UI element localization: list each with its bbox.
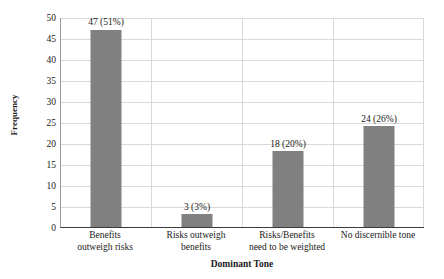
y-tick-label: 0 (28, 223, 56, 233)
bar-group: 18 (20%) (243, 18, 333, 227)
x-category-label: Risks/Benefits need to be weighted (242, 230, 332, 253)
x-category-line-1: Risks outweigh (151, 230, 241, 242)
bar-value-label: 47 (51%) (88, 17, 124, 28)
y-axis-tick-labels: 50 45 40 35 30 25 20 15 10 5 0 (28, 18, 56, 228)
y-tick-label: 40 (28, 55, 56, 65)
x-category-line-1: Risks/Benefits (242, 230, 332, 242)
y-tick-label: 50 (28, 13, 56, 23)
y-tick-label: 45 (28, 34, 56, 44)
bar-series: 47 (51%) 3 (3%) 18 (20%) 24 (26%) (61, 18, 424, 227)
x-axis-title: Dominant Tone (60, 259, 424, 269)
bar-value-label: 18 (20%) (270, 139, 306, 150)
x-category-line-1: Benefits (60, 230, 150, 242)
y-tick-label: 15 (28, 160, 56, 170)
y-tick-label: 20 (28, 139, 56, 149)
y-tick-label: 25 (28, 118, 56, 128)
x-axis-category-labels: Benefits outweigh risks Risks outweigh b… (60, 230, 424, 258)
x-category-line-2: outweigh risks (60, 242, 150, 254)
x-category-label: Risks outweigh benefits (151, 230, 241, 253)
bar-chart: Frequency 50 45 40 35 30 25 20 15 10 5 0 (0, 0, 444, 279)
bar-value-label: 24 (26%) (361, 114, 397, 125)
x-category-label: No discernible tone (331, 230, 425, 242)
bar[interactable] (273, 151, 304, 227)
y-tick-label: 5 (28, 202, 56, 212)
x-category-label: Benefits outweigh risks (60, 230, 150, 253)
x-category-line-2: need to be weighted (242, 242, 332, 254)
bar[interactable] (364, 126, 395, 227)
y-axis-title: Frequency (9, 70, 19, 160)
x-category-line-2: benefits (151, 242, 241, 254)
bar[interactable] (91, 30, 122, 227)
x-category-line-1: No discernible tone (331, 230, 425, 242)
bar[interactable] (182, 214, 213, 227)
bar-group: 3 (3%) (152, 18, 242, 227)
y-tick-label: 30 (28, 97, 56, 107)
bar-group: 24 (26%) (334, 18, 424, 227)
plot-area: 47 (51%) 3 (3%) 18 (20%) 24 (26%) (60, 18, 424, 228)
bar-group: 47 (51%) (61, 18, 151, 227)
y-tick-label: 35 (28, 76, 56, 86)
y-tick-label: 10 (28, 181, 56, 191)
bar-value-label: 3 (3%) (184, 202, 210, 213)
